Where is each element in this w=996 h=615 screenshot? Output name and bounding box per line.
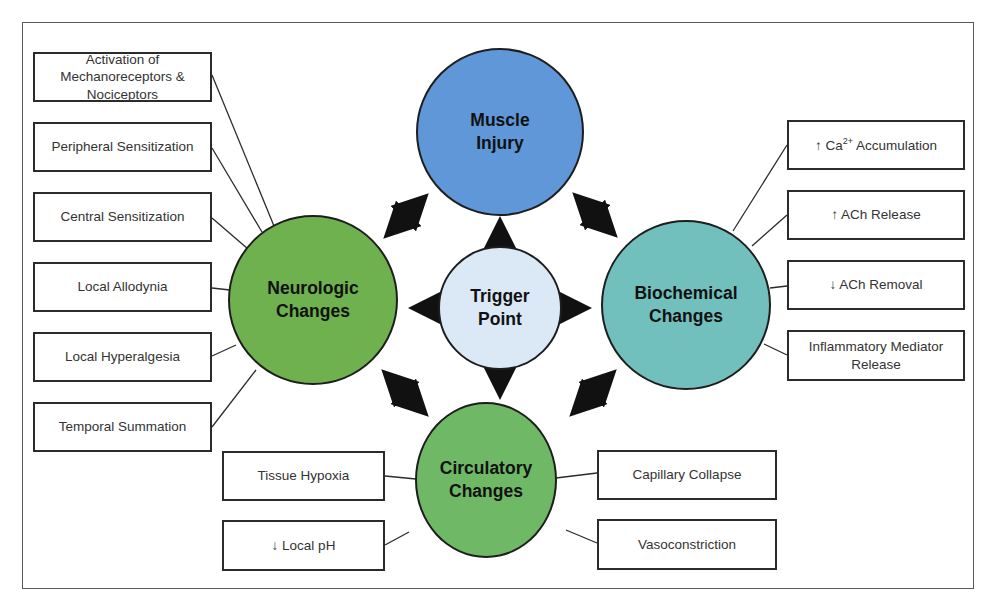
box-label: Local Allodynia xyxy=(77,278,167,296)
node-label: Circulatory xyxy=(440,457,532,480)
biochemical-changes-node: BiochemicalChanges xyxy=(601,220,771,390)
box-label: Mechanoreceptors & xyxy=(60,68,185,86)
box-label: Accumulation xyxy=(853,137,937,152)
box-label: Tissue Hypoxia xyxy=(258,467,350,485)
neurologic-item-box: Temporal Summation xyxy=(33,402,212,452)
box-label: ↓ ACh Removal xyxy=(829,276,922,294)
node-label: Changes xyxy=(634,305,737,328)
node-label: Trigger xyxy=(470,285,529,308)
node-label: Muscle xyxy=(470,109,529,132)
biochemical-item-box: ↑ Ca2+ Accumulation xyxy=(787,120,965,170)
muscle-injury-node: MuscleInjury xyxy=(416,48,584,216)
node-label: Changes xyxy=(267,300,358,323)
box-label: Local Hyperalgesia xyxy=(65,348,180,366)
box-label: ↑ Ca xyxy=(815,137,843,152)
circulatory-item-box: Vasoconstriction xyxy=(597,519,777,570)
neurologic-item-box: Peripheral Sensitization xyxy=(33,122,212,172)
box-label: Nociceptors xyxy=(60,86,185,104)
box-label: ↓ Local pH xyxy=(272,537,336,555)
box-label: Inflammatory Mediator xyxy=(809,338,943,356)
node-label: Changes xyxy=(440,480,532,503)
biochemical-item-box: ↑ ACh Release xyxy=(787,190,965,240)
biochemical-item-box: Inflammatory MediatorRelease xyxy=(787,330,965,381)
box-label: Vasoconstriction xyxy=(638,536,736,554)
circulatory-changes-node: CirculatoryChanges xyxy=(415,402,557,558)
node-label: Neurologic xyxy=(267,277,358,300)
box-label: ↑ ACh Release xyxy=(831,206,920,224)
neurologic-item-box: Local Allodynia xyxy=(33,262,212,312)
neurologic-item-box: Central Sensitization xyxy=(33,192,212,242)
box-label: Activation of xyxy=(60,51,185,69)
box-label: Release xyxy=(809,356,943,374)
trigger-point-node: TriggerPoint xyxy=(438,246,562,370)
neurologic-changes-node: NeurologicChanges xyxy=(228,215,398,385)
neurologic-item-box: Activation ofMechanoreceptors &Nocicepto… xyxy=(33,52,212,102)
neurologic-item-box: Local Hyperalgesia xyxy=(33,332,212,382)
node-label: Biochemical xyxy=(634,282,737,305)
node-label: Injury xyxy=(470,132,529,155)
box-label: Capillary Collapse xyxy=(633,466,742,484)
node-label: Point xyxy=(470,308,529,331)
box-label: Temporal Summation xyxy=(59,418,187,436)
superscript: 2+ xyxy=(843,136,853,146)
circulatory-item-box: Capillary Collapse xyxy=(597,450,777,500)
biochemical-item-box: ↓ ACh Removal xyxy=(787,260,965,310)
box-label: Peripheral Sensitization xyxy=(52,138,194,156)
circulatory-item-box: ↓ Local pH xyxy=(222,520,385,571)
box-label: Central Sensitization xyxy=(61,208,185,226)
circulatory-item-box: Tissue Hypoxia xyxy=(222,451,385,501)
